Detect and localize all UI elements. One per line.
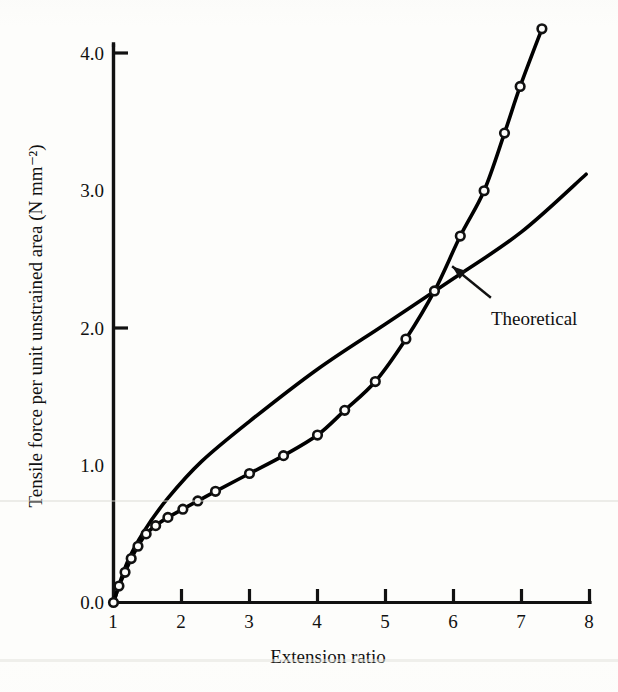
data-point-marker-16 [402,335,411,344]
y-tick-label-3: 3.0 [80,180,104,201]
data-point-marker-18 [456,232,465,241]
data-point-marker-0 [109,598,118,607]
data-point-marker-8 [179,505,188,514]
data-point-marker-21 [516,82,525,91]
data-point-marker-17 [430,287,439,296]
data-point-marker-14 [340,406,349,415]
data-point-marker-5 [142,530,151,539]
y-axis-title: Tensile force per unit unstrained area (… [25,144,47,507]
x-tick-label-3: 3 [244,611,254,632]
x-tick-label-1: 1 [108,611,118,632]
x-tick-label-5: 5 [380,611,390,632]
x-tick-label-8: 8 [584,611,594,632]
x-tick-label-2: 2 [176,611,186,632]
tensile-force-extension-ratio-chart: 4.0 3.0 2.0 1.0 0.0 1 2 3 4 5 6 7 8 Exte… [0,0,618,692]
data-point-marker-6 [151,521,160,530]
x-tick-label-7: 7 [516,611,526,632]
y-tick-label-2: 2.0 [80,318,104,339]
data-point-marker-4 [134,542,143,551]
data-point-marker-11 [245,469,254,478]
y-tick-label-4: 4.0 [80,43,104,64]
data-point-marker-10 [211,487,220,496]
data-point-marker-1 [115,582,124,591]
data-point-marker-12 [279,451,288,460]
x-tick-label-4: 4 [312,611,322,632]
x-axis-title: Extension ratio [270,646,386,667]
data-point-marker-20 [500,129,509,138]
data-point-marker-3 [127,554,136,563]
y-tick-label-0: 0.0 [80,592,104,613]
data-point-marker-2 [121,568,130,577]
data-point-marker-19 [480,186,489,195]
y-tick-label-1: 1.0 [80,455,104,476]
chart-background [0,0,618,692]
data-point-marker-13 [313,431,322,440]
data-point-marker-15 [371,377,380,386]
annotation-label-theoretical: Theoretical [491,308,578,329]
data-point-marker-9 [194,497,203,506]
x-tick-label-6: 6 [448,611,458,632]
data-point-marker-22 [538,25,547,34]
data-point-marker-7 [164,513,173,522]
